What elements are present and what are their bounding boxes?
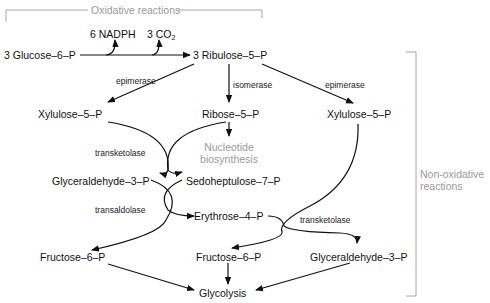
glucose-6-phosphate: 3 Glucose–6–P — [4, 49, 76, 61]
non-oxidative-bracket — [406, 52, 416, 296]
sedoheptulose-7-phosphate: Sedoheptulose–7–P — [186, 175, 281, 187]
enzyme-epimerase-right: epimerase — [325, 80, 365, 90]
glyceraldehyde-3-phosphate-right: Glyceraldehyde–3–P — [310, 251, 407, 263]
co2-product: 3 CO2 — [147, 28, 175, 44]
fructose-6-phosphate-left: Fructose–6–P — [40, 251, 105, 263]
xylulose-5-phosphate-left: Xylulose–5–P — [38, 108, 102, 120]
enzyme-transketolase-2: transketolase — [300, 215, 351, 225]
enzyme-epimerase-left: epimerase — [116, 76, 156, 86]
enzyme-isomerase: isomerase — [233, 80, 272, 90]
nucleotide-biosynthesis-line1: Nucleotide — [204, 141, 254, 153]
non-oxidative-reactions-label-2: reactions — [420, 180, 463, 192]
enzyme-transketolase-1: transketolase — [95, 148, 146, 158]
nadph-product: 6 NADPH — [90, 28, 136, 40]
xylulose-5-phosphate-right: Xylulose–5–P — [327, 108, 391, 120]
ribose-5-phosphate: Ribose–5–P — [202, 108, 259, 120]
co2-subscript: 2 — [172, 34, 176, 41]
fructose-6-phosphate-mid: Fructose–6–P — [196, 251, 261, 263]
arrow-fructose-left-to-glycolysis — [108, 264, 194, 290]
nucleotide-biosynthesis-line2: biosynthesis — [200, 153, 258, 165]
co2-text: 3 CO — [147, 28, 172, 40]
oxidative-reactions-label: Oxidative reactions — [91, 4, 180, 16]
enzyme-transaldolase: transaldolase — [95, 205, 146, 215]
glyceraldehyde-3-phosphate-left: Glyceraldehyde–3–P — [52, 175, 149, 187]
erythrose-4-phosphate: Erythrose–4–P — [194, 210, 263, 222]
arrow-to-nadph — [106, 40, 115, 55]
arrow-transaldolase-to-fructose-left — [92, 180, 172, 250]
ribulose-5-phosphate: 3 Ribulose–5–P — [193, 49, 267, 61]
glycolysis: Glycolysis — [199, 287, 246, 299]
non-oxidative-reactions-label-1: Non-oxidative — [420, 168, 484, 180]
arrow-glyceraldehyde-right-to-glycolysis — [256, 263, 350, 290]
pentose-phosphate-diagram: Oxidative reactions Non-oxidative reacti… — [0, 0, 490, 303]
